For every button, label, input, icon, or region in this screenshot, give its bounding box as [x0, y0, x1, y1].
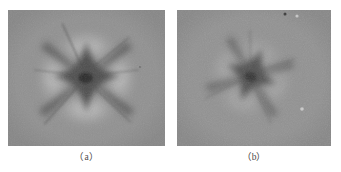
panel-a-graphic: [8, 10, 165, 146]
figure-panel-a: [8, 10, 165, 146]
panel-a-image: [8, 10, 165, 146]
figure-panel-b: [177, 10, 331, 146]
panel-b-image: [177, 10, 331, 146]
panel-a-caption: （a）: [8, 151, 165, 163]
panel-b-graphic: [177, 10, 331, 146]
panel-b-caption: （b）: [177, 151, 331, 163]
figure-root: （a）: [0, 0, 341, 172]
